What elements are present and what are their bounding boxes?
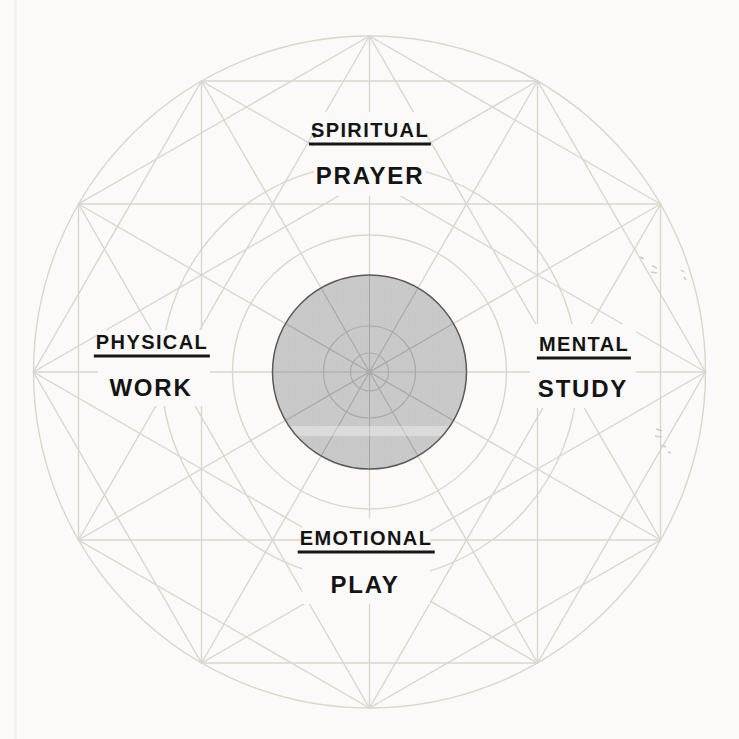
scan-edge-streak — [14, 0, 17, 739]
category-label-mental: MENTAL — [537, 333, 631, 360]
category-label-emotional: EMOTIONAL — [298, 527, 435, 554]
scan-specks-right — [640, 257, 686, 453]
wheel-diagram — [0, 0, 739, 739]
scanned-page: SPIRITUAL PRAYER MENTAL STUDY EMOTIONAL … — [0, 0, 739, 739]
activity-label-prayer: PRAYER — [316, 163, 425, 189]
scan-light-band — [270, 426, 470, 436]
activity-label-work: WORK — [109, 375, 192, 401]
activity-label-play: PLAY — [330, 572, 399, 598]
activity-label-study: STUDY — [538, 376, 628, 402]
category-label-physical: PHYSICAL — [94, 331, 210, 358]
category-label-spiritual: SPIRITUAL — [309, 119, 431, 146]
